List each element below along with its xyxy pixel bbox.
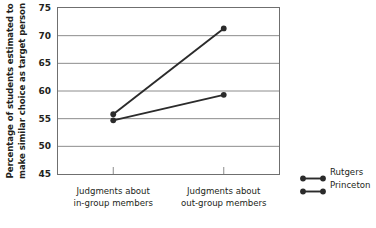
legend-label: Princeton <box>330 181 371 190</box>
y-axis-title-line-1: Percentage of students estimated to <box>5 3 17 179</box>
series-line-princeton <box>113 95 224 120</box>
data-point-rutgers <box>221 26 227 32</box>
x-axis-category-label-line: Judgments about <box>74 186 153 198</box>
data-point-rutgers <box>110 111 116 117</box>
data-point-princeton <box>110 117 116 123</box>
y-axis-tick-label: 45 <box>38 170 51 179</box>
plot-svg <box>58 8 279 174</box>
y-axis-tick-label: 65 <box>38 59 51 68</box>
plot-area <box>57 7 280 175</box>
chart-figure: Percentage of students estimated to make… <box>0 0 376 228</box>
x-axis-category-label-line: Judgments about <box>181 186 267 198</box>
x-axis-category-label: Judgments aboutin-group members <box>74 186 153 209</box>
data-point-princeton <box>221 92 227 98</box>
x-axis-category-label-line: in-group members <box>74 198 153 210</box>
legend-item-princeton[interactable]: Princeton <box>300 179 376 192</box>
legend-marker-icon <box>300 168 326 177</box>
y-axis-tick-label: 60 <box>38 87 51 96</box>
series-line-rutgers <box>113 28 224 114</box>
legend-marker-icon <box>300 181 326 190</box>
x-axis-category-labels: Judgments aboutin-group membersJudgments… <box>57 186 280 220</box>
y-axis-tick-labels: 45505560657075 <box>26 0 54 182</box>
y-axis-tick-label: 55 <box>38 114 51 123</box>
y-axis-tick-label: 75 <box>38 4 51 13</box>
y-axis-tick-label: 70 <box>38 31 51 40</box>
x-axis-category-label: Judgments aboutout-group members <box>181 186 267 209</box>
legend-label: Rutgers <box>330 168 363 177</box>
chart-legend: RutgersPrinceton <box>300 166 376 192</box>
x-axis-category-label-line: out-group members <box>181 198 267 210</box>
legend-item-rutgers[interactable]: Rutgers <box>300 166 376 179</box>
y-axis-tick-label: 50 <box>38 142 51 151</box>
